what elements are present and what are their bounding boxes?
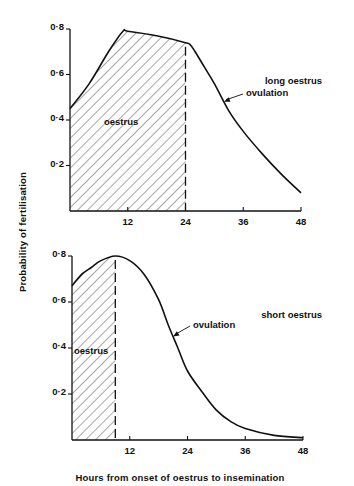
y-tick-label: 0·2 [50,158,64,169]
long-oestrus-panel: 122436480·20·40·60·8 oestrus long oestru… [50,21,322,227]
y-tick-label: 0·6 [52,294,66,305]
ovulation-annotation: ovulation [224,87,288,102]
x-tick-label: 36 [240,445,251,456]
y-axis-title: Probability of fertilisation [17,172,28,292]
y-tick-label: 0·4 [52,340,66,351]
ovulation-label: ovulation [193,319,235,330]
y-tick-label: 0·2 [52,386,66,397]
arrowhead-icon [224,97,230,102]
fertilisation-probability-figure: 122436480·20·40·60·8 oestrus long oestru… [0,0,354,486]
y-tick-label: 0·4 [50,112,64,123]
y-tick-label: 0·8 [50,21,64,32]
x-tick-label: 12 [124,445,135,456]
x-tick-label: 48 [296,216,307,227]
y-tick-label: 0·8 [52,248,66,259]
ovulation-label: ovulation [246,87,288,98]
arrowhead-icon [173,331,179,336]
oestrus-label: oestrus [104,116,138,127]
x-tick-label: 24 [180,216,191,227]
x-tick-label: 48 [298,445,309,456]
panel-title-long-oestrus: long oestrus [265,75,322,86]
x-tick-label: 12 [122,216,133,227]
x-axis-title: Hours from onset of oestrus to inseminat… [75,472,284,483]
oestrus-label: oestrus [74,345,108,356]
short-oestrus-panel: 122436480·20·40·60·8 oestrus short oestr… [52,248,322,456]
panel-title-short-oestrus: short oestrus [261,309,322,320]
x-tick-label: 24 [182,445,193,456]
x-tick-label: 36 [238,216,249,227]
y-tick-label: 0·6 [50,67,64,78]
chart-canvas: 122436480·20·40·60·8 oestrus long oestru… [0,0,354,486]
ovulation-annotation: ovulation [173,319,235,337]
